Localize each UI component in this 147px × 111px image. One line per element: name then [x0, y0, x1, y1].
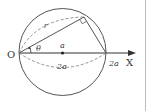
x-axis-arrow-icon	[128, 50, 136, 56]
intercept-label: 2a	[108, 59, 119, 68]
axis-label: X	[126, 57, 134, 68]
origin-label: O	[7, 49, 15, 60]
diameter-arc-label: 2a	[56, 62, 67, 71]
polar-circle-diagram: O X r θ a 2a 2a	[0, 0, 147, 111]
center-label: a	[60, 41, 65, 50]
radius-label: r	[44, 22, 48, 30]
center-point	[61, 51, 64, 54]
angle-label: θ	[36, 44, 41, 53]
